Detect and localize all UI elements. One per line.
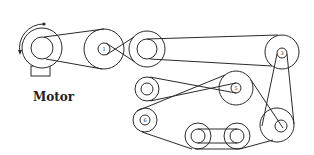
pulley-3: 3 — [265, 35, 299, 69]
belt-pair-lowerright — [240, 140, 273, 149]
motor — [18, 22, 62, 76]
belt-drive-diagram: 1 3 — [0, 0, 314, 155]
belt-pulley2-pulley3-top — [147, 35, 278, 39]
pulley-5-label: 5 — [234, 85, 237, 91]
pulley-4 — [135, 77, 159, 101]
pulley-9 — [260, 108, 294, 142]
pulley-7-outer — [185, 123, 211, 149]
belt-pulley6-bottom — [142, 132, 192, 149]
pulley-5: 5 — [219, 71, 253, 105]
pulley-pair-bottom — [185, 123, 250, 149]
rotation-arrow-head-icon — [18, 50, 22, 55]
pulley-4-outer — [135, 77, 159, 101]
pulley-4-inner — [141, 83, 153, 95]
pulley-8-inner — [230, 129, 244, 143]
pulley-1: 1 — [84, 29, 124, 69]
belt-pulley4-pulley5-a — [150, 77, 236, 93]
pulley-8-outer — [224, 123, 250, 149]
motor-label: Motor — [33, 90, 74, 104]
belt-pulley5-pulley6-top — [137, 75, 225, 111]
diagram-canvas: 1 3 — [0, 0, 314, 155]
pulley-2 — [129, 31, 165, 67]
pulley-6: 6 — [133, 108, 157, 132]
pulley-1-label: 1 — [102, 46, 105, 52]
rotation-arrow-tail-icon — [42, 22, 45, 25]
pulley-6-label: 6 — [143, 117, 146, 123]
pulley-2-inner — [137, 39, 157, 59]
belt-pulley2-pulley3-bottom — [150, 59, 272, 66]
pulley-9-inner — [275, 120, 287, 132]
motor-outer-pulley — [22, 28, 62, 68]
pulley-2-outer — [129, 31, 165, 67]
pulley-9-outer — [260, 108, 294, 142]
pulley-3-label: 3 — [280, 50, 283, 56]
pulley-7-inner — [191, 129, 205, 143]
